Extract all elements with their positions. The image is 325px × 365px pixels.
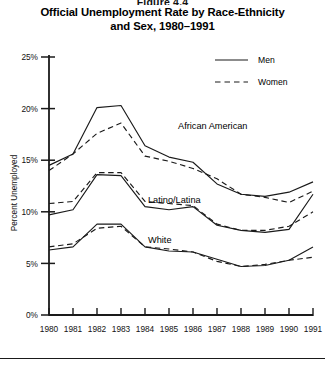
x-tick-label: 1987 [208, 324, 227, 334]
y-tick-label: 20% [21, 104, 38, 114]
x-tick-label: 1983 [112, 324, 131, 334]
unemployment-line-chart: 0%5%10%15%20%25% 19801981198219831984198… [0, 0, 325, 365]
series-group-labels: African AmericanLatino/LatinaWhite [148, 121, 247, 245]
legend-label-men: Men [258, 55, 275, 65]
legend-label-women: Women [258, 77, 288, 87]
figure-container: Figure 4.4 Official Unemployment Rate by… [0, 0, 325, 365]
series-line [49, 224, 313, 266]
y-tick-label: 10% [21, 207, 38, 217]
x-tick-label: 1989 [256, 324, 275, 334]
series-line [49, 123, 313, 202]
x-tick-label: 1982 [88, 324, 107, 334]
x-axis: 1980198119821983198419851986198719881989… [40, 308, 323, 334]
footer-divider [0, 358, 325, 359]
x-tick-label: 1984 [136, 324, 155, 334]
y-tick-label: 15% [21, 155, 38, 165]
x-tick-label: 1991 [304, 324, 323, 334]
y-tick-label: 0% [26, 310, 39, 320]
series-group-label: African American [178, 121, 247, 131]
y-axis: 0%5%10%15%20%25% [21, 52, 55, 320]
series-group-label: White [148, 235, 172, 245]
x-tick-label: 1981 [64, 324, 83, 334]
y-tick-label: 5% [26, 259, 39, 269]
x-tick-label: 1990 [280, 324, 299, 334]
series-group-label: Latino/Latina [148, 195, 202, 205]
y-axis-title: Percent Unemployed [10, 154, 19, 231]
chart-legend: MenWomen [215, 55, 288, 87]
y-axis-title-text: Percent Unemployed [10, 154, 19, 231]
x-tick-label: 1988 [232, 324, 251, 334]
x-tick-label: 1986 [184, 324, 203, 334]
x-tick-label: 1985 [160, 324, 179, 334]
x-tick-label: 1980 [40, 324, 59, 334]
y-tick-label: 25% [21, 52, 38, 62]
